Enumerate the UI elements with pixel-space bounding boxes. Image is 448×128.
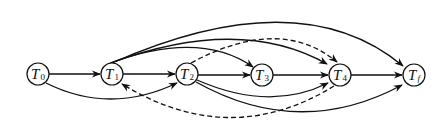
- node-t2: [176, 63, 198, 85]
- edge-t2-tf: [196, 82, 402, 112]
- edges-layer: [0, 0, 448, 128]
- node-t3: [251, 64, 273, 86]
- edge-t1-tf: [112, 22, 403, 66]
- graph-diagram: T0 T1 T2 T3 T4 Tf: [0, 0, 448, 128]
- node-t4: [329, 64, 351, 86]
- node-t1: [101, 63, 123, 85]
- edge-t4-t1-dashed: [122, 84, 334, 118]
- node-t0: [27, 63, 49, 85]
- node-tf: [403, 64, 425, 86]
